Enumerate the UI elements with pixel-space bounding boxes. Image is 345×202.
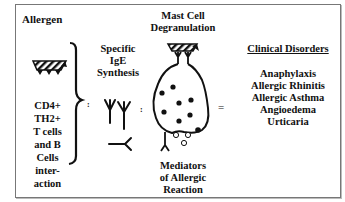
clinical-disorders-list: Anaphylaxis Allergic Rhinitis Allergic A… — [240, 68, 336, 128]
mast-cell-title: Mast Cell Degranulation — [148, 10, 218, 34]
line: action — [25, 177, 70, 190]
ige-synthesis-label: Specific IgE Synthesis — [90, 43, 146, 79]
line: Reaction — [150, 184, 216, 196]
line: and B — [25, 138, 70, 151]
allergen-icon — [33, 61, 67, 75]
ige-antibody-icons — [105, 100, 131, 150]
cell-interaction-label: CD4+ TH2+ T cells and B Cells inter- int… — [25, 99, 70, 190]
line: CD4+ — [25, 99, 70, 112]
operator-equals: = — [218, 101, 224, 113]
operator-colon-2: : — [140, 104, 143, 116]
allergen-title: Allergen — [22, 13, 62, 25]
line: Degranulation — [148, 22, 218, 34]
line: of Allergic — [150, 172, 216, 184]
line: Mediators — [150, 160, 216, 172]
mast-cell-receptor-bottom — [161, 132, 169, 151]
operator-colon-1: : — [87, 99, 90, 111]
line: TH2+ — [25, 112, 70, 125]
list-item: Allergic Asthma — [240, 92, 336, 104]
line: Specific — [90, 43, 146, 55]
line: T cells — [25, 125, 70, 138]
clinical-disorders-title: Clinical Disorders — [240, 43, 336, 55]
line: IgE — [90, 55, 146, 67]
line: inter- — [25, 164, 70, 177]
list-item: Anaphylaxis — [240, 68, 336, 80]
mast-cell-granules — [159, 84, 200, 132]
mast-cell-allergen-icon — [168, 44, 199, 64]
mediators-label: Mediators of Allergic Reaction — [150, 160, 216, 196]
line: Synthesis — [90, 67, 146, 79]
released-mediators-icon — [173, 132, 190, 145]
list-item: Allergic Rhinitis — [240, 80, 336, 92]
line: Cells — [25, 151, 70, 164]
brace-icon — [69, 43, 82, 164]
line: Mast Cell — [148, 10, 218, 22]
list-item: Urticaria — [240, 116, 336, 128]
list-item: Angioedema — [240, 104, 336, 116]
